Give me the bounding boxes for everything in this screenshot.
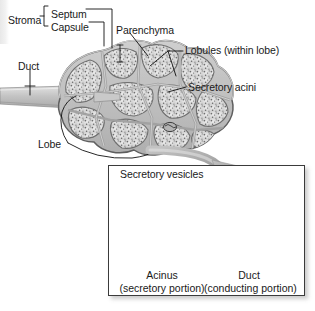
leader-septum — [86, 9, 112, 48]
caption-duct-line1: Duct — [204, 269, 294, 282]
gland-illustration — [0, 40, 233, 155]
caption-acinus-line2: (secretory portion) — [118, 282, 206, 295]
label-secretory-vesicles: Secretory vesicles — [120, 168, 203, 180]
label-parenchyma: Parenchyma — [116, 24, 174, 36]
label-stroma: Stroma — [8, 14, 41, 26]
caption-acinus-line1: Acinus — [118, 269, 206, 282]
highlighted-acinus — [164, 122, 177, 131]
gland-interior — [64, 44, 230, 152]
label-duct: Duct — [18, 60, 39, 72]
label-lobules: Lobules (within lobe) — [185, 44, 279, 56]
caption-acinus: Acinus (secretory portion) — [118, 269, 206, 294]
leader-capsule — [89, 22, 104, 46]
label-secretory-acini: Secretory acini — [188, 81, 256, 93]
caption-duct: Duct (conducting portion) — [204, 269, 294, 294]
label-septum: Septum — [51, 8, 87, 20]
brace-stroma — [44, 6, 48, 26]
label-capsule: Capsule — [51, 21, 89, 33]
caption-duct-line2: (conducting portion) — [204, 282, 294, 295]
label-lobe: Lobe — [38, 138, 61, 150]
figure-root: Stroma Septum Capsule Parenchyma Lobules… — [0, 0, 315, 311]
